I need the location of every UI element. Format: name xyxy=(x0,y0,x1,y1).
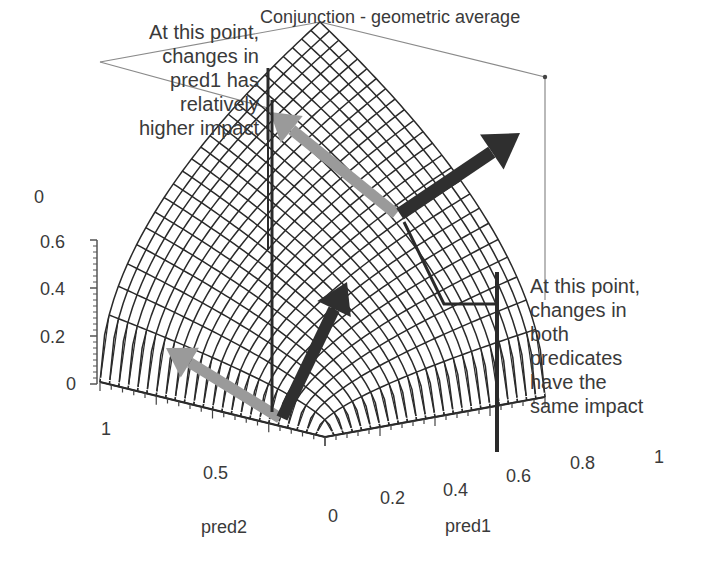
x-tick: 0.4 xyxy=(443,479,468,502)
annotation-line: both xyxy=(530,322,643,346)
annotation-line: have the xyxy=(530,370,643,394)
chart-title: Conjunction - geometric average xyxy=(260,6,520,29)
annotation-left: At this point, changes in pred1 has rela… xyxy=(139,20,259,140)
annotation-line: same impact xyxy=(530,394,643,418)
y-tick: 1 xyxy=(101,418,111,441)
z-tick-top: 0 xyxy=(34,186,44,209)
z-tick: 0 xyxy=(66,373,76,396)
annotation-right: At this point, changes in both predicate… xyxy=(530,274,643,418)
annotation-line: higher impact xyxy=(139,116,259,140)
x-tick: 0.6 xyxy=(506,465,531,488)
z-tick: 0.4 xyxy=(40,278,65,301)
annotation-line: At this point, xyxy=(530,274,643,298)
y-tick: 0.5 xyxy=(203,462,228,485)
annotation-line: pred1 has xyxy=(139,68,259,92)
annotation-line: changes in xyxy=(139,44,259,68)
x-tick: 1 xyxy=(654,446,664,469)
y-tick: 0 xyxy=(328,505,338,528)
x-tick: 0.2 xyxy=(380,487,405,510)
x-tick: 0.8 xyxy=(570,452,595,475)
annotation-line: relatively xyxy=(139,92,259,116)
z-tick: 0.2 xyxy=(40,326,65,349)
annotation-line: At this point, xyxy=(139,20,259,44)
annotation-line: changes in xyxy=(530,298,643,322)
annotation-line: predicates xyxy=(530,346,643,370)
y-axis-label: pred2 xyxy=(201,516,247,539)
z-tick: 0.6 xyxy=(40,231,65,254)
x-axis-label: pred1 xyxy=(445,515,491,538)
